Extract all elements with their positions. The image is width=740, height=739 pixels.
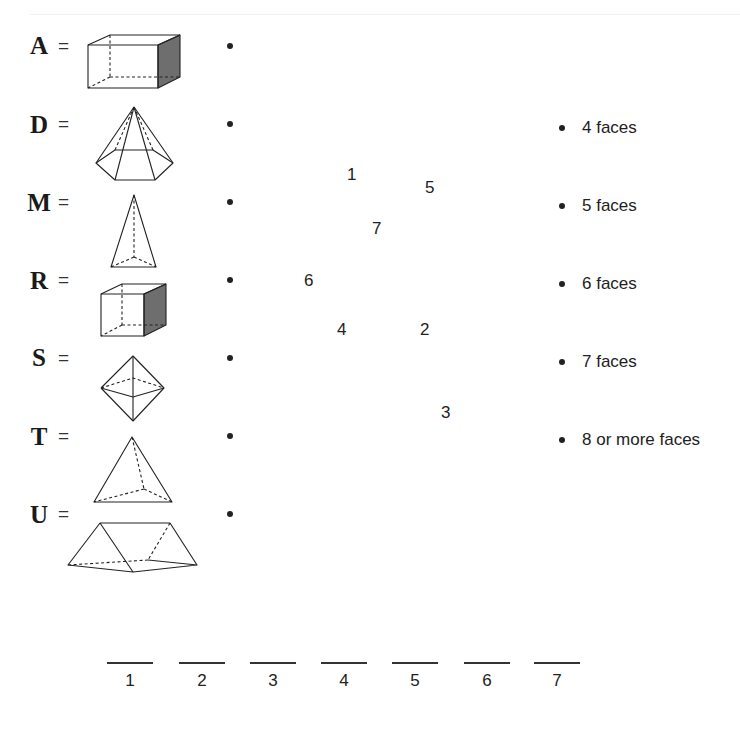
answer-blank-2[interactable] — [179, 662, 225, 664]
answer-blank-1[interactable] — [107, 662, 153, 664]
answer-blank-5[interactable] — [392, 662, 438, 664]
match-dot-4-faces[interactable] — [559, 125, 565, 131]
scrambled-number: 5 — [425, 178, 434, 198]
scrambled-number: 2 — [420, 320, 429, 340]
scrambled-number: 3 — [441, 403, 450, 423]
face-option-5: 5 faces — [582, 196, 637, 216]
hexagonal-pyramid-icon — [96, 107, 173, 180]
match-dot-r[interactable] — [227, 277, 233, 283]
answer-blank-7[interactable] — [534, 662, 580, 664]
answer-blank-label: 2 — [179, 671, 225, 691]
match-dot-d[interactable] — [227, 121, 233, 127]
match-dot-u[interactable] — [227, 511, 233, 517]
triangular-pyramid-icon — [111, 195, 156, 267]
scrambled-number: 7 — [372, 219, 381, 239]
match-dot-t[interactable] — [227, 433, 233, 439]
answer-blank-6[interactable] — [464, 662, 510, 664]
answer-blank-label: 3 — [250, 671, 296, 691]
answer-blank-label: 5 — [392, 671, 438, 691]
answer-blank-3[interactable] — [250, 662, 296, 664]
face-option-8-plus: 8 or more faces — [582, 430, 700, 450]
cube-icon — [101, 284, 166, 336]
scrambled-number: 4 — [337, 320, 346, 340]
face-option-7: 7 faces — [582, 352, 637, 372]
match-dot-7-faces[interactable] — [559, 359, 565, 365]
face-option-6: 6 faces — [582, 274, 637, 294]
match-dot-8-plus-faces[interactable] — [559, 437, 565, 443]
tetrahedron-icon — [94, 437, 172, 502]
answer-blank-label: 1 — [107, 671, 153, 691]
scrambled-number: 1 — [347, 165, 356, 185]
face-option-4: 4 faces — [582, 118, 637, 138]
answer-blank-label: 6 — [464, 671, 510, 691]
scrambled-number: 6 — [304, 271, 313, 291]
match-dot-a[interactable] — [227, 43, 233, 49]
triangular-prism-icon — [68, 523, 197, 572]
answer-blank-label: 7 — [534, 671, 580, 691]
octahedron-icon — [101, 356, 164, 421]
answer-blank-label: 4 — [321, 671, 367, 691]
match-dot-6-faces[interactable] — [559, 281, 565, 287]
match-dot-5-faces[interactable] — [559, 203, 565, 209]
match-dot-m[interactable] — [227, 199, 233, 205]
rectangular-prism-icon — [88, 35, 180, 88]
match-dot-s[interactable] — [227, 355, 233, 361]
answer-blank-4[interactable] — [321, 662, 367, 664]
